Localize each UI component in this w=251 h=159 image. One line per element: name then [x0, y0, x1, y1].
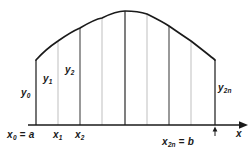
label-y2n: y2n: [218, 83, 231, 93]
plot-canvas: [0, 0, 251, 159]
label-y2-subscript: 2: [71, 69, 75, 76]
x-axis-label: x: [236, 129, 242, 139]
label-x2n-equals-b-rest: = b: [175, 136, 194, 147]
major-ordinate-group: [36, 11, 215, 125]
label-x1-base: x: [53, 129, 59, 140]
label-y1-subscript: 1: [49, 78, 53, 85]
integration-figure: y0 y1 y2 y2n x0 = a x1 x2 x2n = b x: [0, 0, 251, 159]
label-y1: y1: [43, 74, 52, 84]
label-x2n-base: x: [162, 136, 168, 147]
label-x0-equals-a-rest: = a: [17, 129, 35, 140]
label-x2n-equals-b: x2n = b: [162, 137, 194, 147]
label-x2-subscript: 2: [81, 134, 85, 141]
label-y1-base: y: [43, 73, 49, 84]
label-x1-subscript: 1: [59, 134, 63, 141]
label-y2: y2: [65, 65, 74, 75]
label-x2: x2: [75, 130, 84, 140]
label-x0-equals-a: x0 = a: [7, 130, 35, 140]
label-y2-base: y: [65, 64, 71, 75]
label-y0: y0: [21, 88, 30, 98]
label-x1: x1: [53, 130, 62, 140]
label-x0-subscript: 0: [13, 134, 17, 141]
label-y2n-base: y: [218, 82, 224, 93]
label-x2-base: x: [75, 129, 81, 140]
label-x2n-subscript: 2n: [168, 141, 176, 148]
label-y0-base: y: [21, 87, 27, 98]
label-x0-base: x: [7, 129, 13, 140]
label-y2n-subscript: 2n: [224, 87, 232, 94]
label-y0-subscript: 0: [27, 92, 31, 99]
